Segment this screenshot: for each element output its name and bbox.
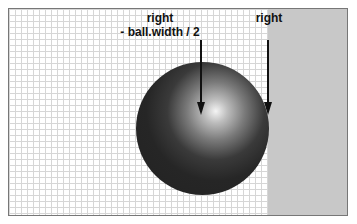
arrow-right-edge xyxy=(264,40,272,115)
arrow-ball-center xyxy=(197,40,205,115)
arrows xyxy=(0,0,357,224)
